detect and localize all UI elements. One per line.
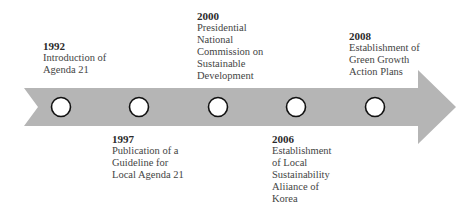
event-description-line: Publication of a <box>112 145 184 157</box>
event-description-line: of Local <box>272 157 332 169</box>
timeline-event-1992: 1992 Introduction of Agenda 21 <box>43 40 106 76</box>
event-description-line: Korea <box>272 193 332 205</box>
timeline-event-2006: 2006 Establishment of Local Sustainabili… <box>272 133 332 205</box>
event-description-line: Presidential <box>197 22 263 34</box>
event-year: 1992 <box>43 40 106 52</box>
event-description-line: Introduction of <box>43 52 106 64</box>
event-description-line: Development <box>197 70 263 82</box>
event-description-line: Establishment <box>272 145 332 157</box>
timeline-marker-1997 <box>130 98 149 117</box>
timeline-event-2000: 2000 Presidential National Commission on… <box>197 10 263 82</box>
event-description-line: National <box>197 34 263 46</box>
event-description-line: Sustainability <box>272 169 332 181</box>
event-description-line: Local Agenda 21 <box>112 169 184 181</box>
event-description-line: Commission on <box>197 46 263 58</box>
event-description-line: Establishment of <box>349 42 420 54</box>
event-year: 2008 <box>349 30 420 42</box>
event-description-line: Sustainable <box>197 58 263 70</box>
event-description-line: Action Plans <box>349 66 420 78</box>
timeline-marker-2006 <box>287 98 306 117</box>
event-year: 2000 <box>197 10 263 22</box>
timeline-marker-1992 <box>52 98 71 117</box>
event-description-line: Green Growth <box>349 54 420 66</box>
event-year: 2006 <box>272 133 332 145</box>
event-year: 1997 <box>112 133 184 145</box>
timeline-marker-2008 <box>366 98 385 117</box>
event-description-line: Guideline for <box>112 157 184 169</box>
timeline-diagram: 1992 Introduction of Agenda 21 1997 Publ… <box>0 0 474 211</box>
timeline-marker-2000 <box>209 98 228 117</box>
timeline-event-1997: 1997 Publication of a Guideline for Loca… <box>112 133 184 181</box>
event-description-line: Aliiance of <box>272 181 332 193</box>
timeline-event-2008: 2008 Establishment of Green Growth Actio… <box>349 30 420 78</box>
event-description-line: Agenda 21 <box>43 64 106 76</box>
